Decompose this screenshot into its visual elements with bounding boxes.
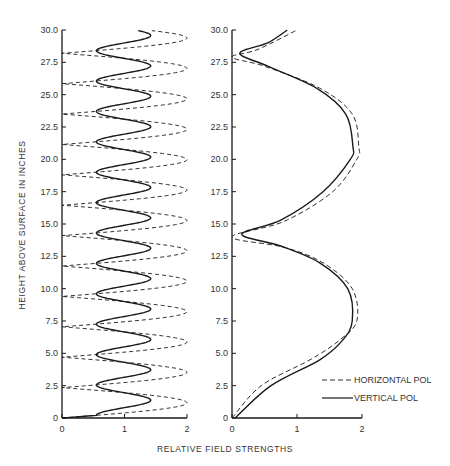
horizontal-pol-curve xyxy=(232,30,360,418)
y-tick-label: 22.5 xyxy=(40,122,58,132)
y-tick-label: 17.5 xyxy=(210,187,228,197)
y-tick-label: 27.5 xyxy=(210,57,228,67)
y-tick-label: 2.5 xyxy=(215,381,228,391)
x-tick-label: 1 xyxy=(122,424,127,434)
y-tick-label: 27.5 xyxy=(40,57,58,67)
y-tick-label: 5.0 xyxy=(45,348,58,358)
x-tick-label: 2 xyxy=(359,424,364,434)
y-axis-title: HEIGHT ABOVE SURFACE IN INCHES xyxy=(17,141,27,310)
left-panel: 02.55.07.510.012.515.017.520.022.525.027… xyxy=(40,25,189,434)
y-tick-label: 7.5 xyxy=(45,316,58,326)
right-panel: 02.55.07.510.012.515.017.520.022.525.027… xyxy=(210,25,364,434)
y-tick-label: 10.0 xyxy=(210,284,228,294)
y-tick-label: 20.0 xyxy=(40,154,58,164)
y-tick-label: 15.0 xyxy=(210,219,228,229)
y-tick-label: 12.5 xyxy=(210,251,228,261)
vertical-pol-curve xyxy=(235,30,354,418)
x-axis-title: RELATIVE FIELD STRENGTHS xyxy=(157,444,293,454)
x-tick-label: 1 xyxy=(294,424,299,434)
y-tick-label: 30.0 xyxy=(40,25,58,35)
y-tick-label: 15.0 xyxy=(40,219,58,229)
x-tick-label: 0 xyxy=(229,424,234,434)
legend-label-horizontal: HORIZONTAL POL xyxy=(354,375,432,385)
x-tick-label: 2 xyxy=(184,424,189,434)
y-tick-label: 30.0 xyxy=(210,25,228,35)
y-tick-label: 12.5 xyxy=(40,251,58,261)
y-tick-label: 0 xyxy=(53,413,58,423)
y-tick-label: 25.0 xyxy=(210,90,228,100)
y-tick-label: 2.5 xyxy=(45,381,58,391)
y-tick-label: 25.0 xyxy=(40,90,58,100)
field-strength-figure: HEIGHT ABOVE SURFACE IN INCHES RELATIVE … xyxy=(0,0,450,466)
y-tick-label: 20.0 xyxy=(210,154,228,164)
vertical-pol-curve xyxy=(62,31,151,418)
y-tick-label: 10.0 xyxy=(40,284,58,294)
legend-label-vertical: VERTICAL POL xyxy=(354,393,418,403)
legend: HORIZONTAL POL VERTICAL POL xyxy=(322,375,432,403)
y-tick-label: 22.5 xyxy=(210,122,228,132)
y-tick-label: 0 xyxy=(223,413,228,423)
x-tick-label: 0 xyxy=(59,424,64,434)
y-tick-label: 5.0 xyxy=(215,348,228,358)
y-tick-label: 17.5 xyxy=(40,187,58,197)
y-tick-label: 7.5 xyxy=(215,316,228,326)
